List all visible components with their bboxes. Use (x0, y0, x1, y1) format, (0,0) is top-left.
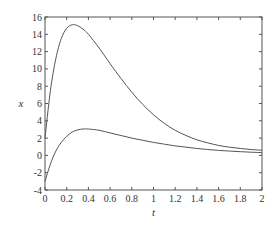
x-tick-label: 0 (43, 193, 48, 204)
y-tick-label: -2 (34, 167, 42, 178)
y-tick-label: 8 (37, 81, 42, 92)
x-tick-label: 0.4 (82, 193, 95, 204)
y-tick-label: 2 (37, 133, 42, 144)
y-tick-label: 16 (32, 12, 42, 23)
x-tick-label: 1 (151, 193, 156, 204)
y-tick-label: -4 (34, 185, 42, 196)
x-tick-label: 1.4 (191, 193, 204, 204)
y-tick-label: 6 (37, 98, 42, 109)
y-tick-label: 0 (37, 150, 42, 161)
y-tick-label: 4 (37, 115, 42, 126)
x-tick-label: 0.6 (104, 193, 117, 204)
line-chart: 00.20.40.60.811.21.41.61.82 -4-202468101… (0, 0, 278, 229)
x-tick-label: 1.2 (169, 193, 182, 204)
x-tick-label: 1.6 (212, 193, 225, 204)
x-tick-label: 0.8 (126, 193, 139, 204)
y-tick-label: 10 (32, 63, 42, 74)
y-tick-label: 12 (32, 46, 42, 57)
x-tick-label: 1.8 (234, 193, 247, 204)
x-tick-label: 0.2 (60, 193, 73, 204)
y-tick-label: 14 (32, 29, 42, 40)
plot-area (45, 17, 262, 190)
x-axis-label: t (152, 206, 156, 218)
x-tick-label: 2 (260, 193, 265, 204)
y-axis-label: x (18, 97, 24, 109)
